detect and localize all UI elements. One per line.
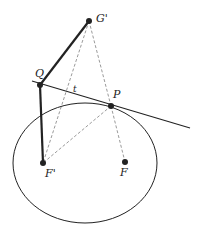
segment-q-fprime [40, 85, 43, 163]
label-t: t [73, 84, 77, 94]
dashed-gprime-p [89, 21, 111, 106]
label-fprime: F' [44, 167, 56, 180]
dashed-gprime-fprime [43, 21, 89, 163]
label-f: F [119, 166, 128, 179]
ellipse [13, 103, 157, 223]
label-gprime: G' [96, 12, 108, 25]
dashed-p-fprime [43, 106, 111, 163]
point-fprime [40, 160, 46, 166]
dashed-p-f [111, 106, 125, 162]
point-q [37, 82, 43, 88]
label-q: Q [35, 67, 44, 80]
segment-q-gprime [40, 21, 89, 85]
ellipse-tangent-diagram: G' Q t P F' F [0, 0, 201, 234]
label-p: P [112, 88, 121, 101]
point-f [122, 159, 128, 165]
point-gprime [86, 18, 92, 24]
point-p [108, 103, 114, 109]
